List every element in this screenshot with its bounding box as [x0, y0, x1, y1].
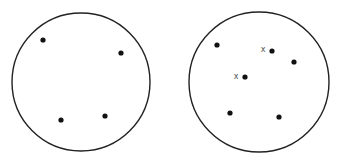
x-mark: x	[234, 72, 239, 81]
circle-outline	[12, 13, 150, 151]
point-dot	[40, 37, 45, 42]
point-dot	[227, 110, 232, 115]
circle-outline	[189, 12, 329, 152]
point-dot	[118, 50, 123, 55]
point-dot	[291, 59, 296, 64]
point-dot	[276, 114, 281, 119]
point-dot	[102, 113, 107, 118]
point-dot	[58, 117, 63, 122]
point-dot	[242, 74, 247, 79]
right-circle: xx	[189, 12, 329, 152]
x-mark: x	[261, 45, 266, 54]
diagram-canvas: xx	[0, 0, 350, 161]
point-dot	[214, 42, 219, 47]
point-dot	[269, 48, 274, 53]
left-circle	[12, 13, 150, 151]
